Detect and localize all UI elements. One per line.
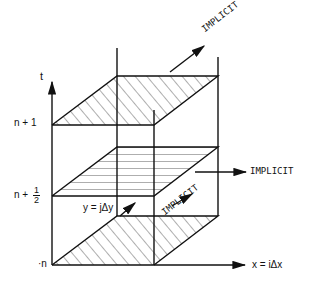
plane-n <box>52 216 218 265</box>
level-n-plus-half-label: n + 1 2 <box>14 186 40 205</box>
adi-grid-diagram <box>0 0 310 283</box>
fraction-one-half: 1 2 <box>33 186 40 205</box>
fraction-numerator: 1 <box>34 186 39 195</box>
level-n-label: ·n <box>38 258 47 269</box>
fraction-denominator: 2 <box>34 196 39 205</box>
t-axis-label: t <box>40 70 43 82</box>
implicit-arrow-top <box>170 46 204 72</box>
plane-n-plus-1 <box>52 76 218 125</box>
x-axis-label: x = iΔx <box>252 259 282 270</box>
y-arrow <box>120 203 135 216</box>
implicit-label-right: IMPLICIT <box>250 166 293 176</box>
y-axis-label: y = jΔy <box>83 202 113 213</box>
level-n-plus-half-text: n + <box>14 189 28 200</box>
level-n-plus-1-label: n + 1 <box>14 117 37 128</box>
